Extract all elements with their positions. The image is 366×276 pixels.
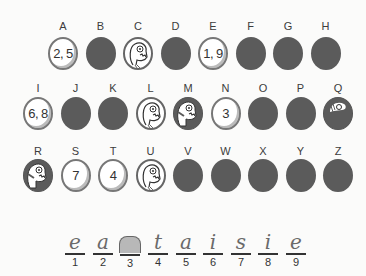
hidden-coin[interactable] [211,159,241,192]
letter-cell-v[interactable]: V [170,145,206,157]
letter-cell-z[interactable]: Z [320,145,356,157]
hidden-coin[interactable] [248,159,278,192]
hidden-coin[interactable] [173,159,203,192]
answer-blank-8[interactable]: i 8 [257,232,279,268]
letter-label: P [283,82,319,94]
letter-cell-s[interactable]: S7 [58,145,94,157]
letter-cell-a[interactable]: A2, 5 [45,20,81,32]
letter-cell-q[interactable]: Q [320,82,356,94]
answer-blank-5[interactable]: a 5 [175,232,197,268]
position-numbers: 1, 9 [203,46,223,61]
answer-blank-3[interactable]: n 3 [119,232,141,269]
hidden-coin[interactable] [286,97,316,130]
hidden-coin[interactable] [273,37,303,70]
letter-label: V [170,145,206,157]
letter-cell-k[interactable]: K [95,82,131,94]
revealed-coin[interactable]: 3 [211,97,241,130]
partial-face-coin[interactable] [323,97,353,130]
blank-index: 2 [92,256,114,268]
revealed-coin[interactable]: 1, 9 [198,37,228,70]
blank-index: 3 [119,257,141,269]
letter-label: H [308,20,344,32]
handwritten-letter: i [202,232,224,252]
letter-cell-c[interactable]: C [120,20,156,32]
answer-blank-6[interactable]: i 6 [202,232,224,268]
position-numbers: 6, 8 [28,106,48,121]
handwritten-letter: a [175,232,197,252]
handwritten-letter: e [285,232,307,252]
blank-index: 8 [257,256,279,268]
letter-cell-o[interactable]: O [245,82,281,94]
answer-blank-7[interactable]: s 7 [230,232,252,268]
answer-blank-1[interactable]: e 1 [64,232,86,268]
partial-face-coin[interactable] [23,159,53,192]
letter-cell-p[interactable]: P [283,82,319,94]
letter-cell-t[interactable]: T4 [95,145,131,157]
answer-blank-4[interactable]: t 4 [147,232,169,268]
hidden-coin[interactable] [311,37,341,70]
letter-label: Y [283,145,319,157]
letter-label: C [120,20,156,32]
hidden-coin[interactable] [286,159,316,192]
handwritten-letter: t [147,232,169,252]
letter-label: D [158,20,194,32]
letter-label: K [95,82,131,94]
revealed-coin[interactable]: 6, 8 [23,97,53,130]
position-numbers: 7 [72,168,79,183]
revealed-coin[interactable]: 2, 5 [48,37,78,70]
letter-cell-h[interactable]: H [308,20,344,32]
letter-label: N [208,82,244,94]
letter-cell-b[interactable]: B [83,20,119,32]
letter-label: B [83,20,119,32]
letter-label: G [270,20,306,32]
letter-cell-x[interactable]: X [245,145,281,157]
position-numbers: 4 [110,168,117,183]
letter-cell-j[interactable]: J [58,82,94,94]
letter-label: S [58,145,94,157]
letter-label: U [133,145,169,157]
blank-index: 4 [147,256,169,268]
letter-cell-m[interactable]: M [170,82,206,94]
letter-label: X [245,145,281,157]
hidden-coin[interactable] [236,37,266,70]
letter-label: Q [320,82,356,94]
letter-cell-i[interactable]: I6, 8 [20,82,56,94]
letter-label: A [45,20,81,32]
letter-cell-f[interactable]: F [233,20,269,32]
letter-cell-y[interactable]: Y [283,145,319,157]
handwritten-letter: s [230,232,252,252]
handwritten-letter: a [92,232,114,252]
letter-cell-r[interactable]: R [20,145,56,157]
hidden-coin[interactable] [248,97,278,130]
hidden-coin[interactable] [323,159,353,192]
letter-cell-g[interactable]: G [270,20,306,32]
letter-cell-u[interactable]: U [133,145,169,157]
face-coin[interactable] [136,97,166,130]
answer-blank-2[interactable]: a 2 [92,232,114,268]
hidden-coin[interactable] [98,97,128,130]
letter-label: M [170,82,206,94]
face-coin[interactable] [123,37,153,70]
letter-label: E [195,20,231,32]
revealed-coin[interactable]: 4 [98,159,128,192]
letter-cell-e[interactable]: E1, 9 [195,20,231,32]
blank-index: 6 [202,256,224,268]
blank-index: 9 [285,256,307,268]
revealed-coin[interactable]: 7 [61,159,91,192]
face-coin[interactable] [136,159,166,192]
letter-label: W [208,145,244,157]
letter-cell-d[interactable]: D [158,20,194,32]
hidden-coin[interactable] [61,97,91,130]
blank-index: 5 [175,256,197,268]
letter-cell-l[interactable]: L [133,82,169,94]
letter-cell-n[interactable]: N3 [208,82,244,94]
partial-face-coin[interactable] [173,97,203,130]
handwritten-letter: i [257,232,279,252]
position-numbers: 3 [222,106,229,121]
answer-blank-9[interactable]: e 9 [285,232,307,268]
letter-label: F [233,20,269,32]
letter-label: Z [320,145,356,157]
hidden-coin[interactable] [86,37,116,70]
letter-cell-w[interactable]: W [208,145,244,157]
hidden-coin[interactable] [161,37,191,70]
